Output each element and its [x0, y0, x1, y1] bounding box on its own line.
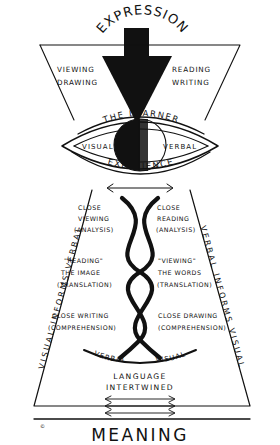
double-headed-arrow-icon: [107, 184, 173, 192]
left-item-2-note: (COMPREHENSION): [48, 324, 116, 331]
left-item-2-line1: CLOSE WRITING: [52, 312, 109, 319]
mode-reading-label: READING: [172, 65, 211, 74]
left-item-0-note: (ANALYSIS): [74, 226, 114, 233]
right-item-1-note: (TRANSLATION): [157, 281, 212, 288]
meaning-label: MEANING: [91, 425, 188, 445]
left-item-1-note: (TRANSLATION): [57, 281, 112, 288]
mode-drawing-label: DRAWING: [57, 78, 98, 87]
right-item-2-line1: CLOSE DRAWING: [158, 312, 218, 319]
right-item-1-line2: THE WORDS: [157, 269, 201, 276]
diagram-canvas: EXPRESSION VIEWING DRAWING READING WRITI…: [0, 0, 280, 445]
copyright-mark: ©: [40, 423, 45, 429]
language-caption-line2: INTERTWINED: [106, 383, 174, 392]
left-item-0-line1: CLOSE: [78, 204, 101, 211]
mode-viewing-label: VIEWING: [57, 65, 95, 74]
left-item-1-line2: THE IMAGE: [60, 269, 100, 276]
right-item-1-line1: "VIEWING": [158, 257, 196, 264]
right-edge-label: VERBAL INFORMS VISUAL: [198, 225, 246, 370]
figure-svg: EXPRESSION VIEWING DRAWING READING WRITI…: [0, 0, 280, 445]
bottom-arc-verbal-label: VERBAL: [93, 350, 127, 364]
left-item-0-line2: VIEWING: [78, 215, 109, 222]
eye-visual-label: VISUAL: [82, 143, 114, 151]
language-caption-line1: LANGUAGE: [113, 372, 167, 381]
right-item-0-line1: CLOSE: [157, 204, 180, 211]
triple-double-headed-arrow-icon: [105, 396, 175, 416]
eye-verbal-label: VERBAL: [163, 143, 197, 151]
triangle-left-column: CLOSE VIEWING (ANALYSIS) "READING" THE I…: [48, 204, 116, 331]
right-item-0-line2: READING: [157, 215, 189, 222]
left-item-1-line1: "READING": [64, 257, 103, 264]
intertwined-helix-icon: [120, 198, 160, 358]
right-item-0-note: (ANALYSIS): [156, 226, 196, 233]
bottom-arc-visual-label: VISUAL: [155, 350, 187, 364]
mode-writing-label: WRITING: [172, 78, 210, 87]
right-item-2-note: (COMPREHENSION): [158, 324, 226, 331]
left-edge-label: VISUAL INFORMS VERBAL: [37, 224, 84, 370]
